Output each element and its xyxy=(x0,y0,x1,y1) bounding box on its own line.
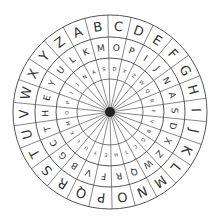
ring-middle-letter: Z xyxy=(153,148,165,159)
ring-outer-letter: N xyxy=(135,183,150,201)
ring-middle-letter: C xyxy=(48,138,60,148)
ring-outer-letter: H xyxy=(185,83,202,96)
ring-inner-letter: Q xyxy=(144,88,151,94)
ring-inner-letter: X xyxy=(122,68,128,75)
ring-middle-letter: H xyxy=(40,110,50,117)
ring-inner-letter: G xyxy=(140,137,147,144)
ring-inner-letter: J xyxy=(73,81,79,87)
ring-middle-letter: B xyxy=(69,160,80,172)
ring-outer-letter: D xyxy=(132,22,146,39)
ring-inner-letter: A xyxy=(91,68,97,75)
cipher-wheel[interactable]: ABCDEFGHIJKLMNOPQRSTUVWXYZKMOPIJNASDXZWQ… xyxy=(0,0,217,223)
ring-middle-letter: L xyxy=(67,54,77,65)
ring-middle-letter: M xyxy=(96,43,105,54)
ring-inner-letter: Y xyxy=(92,149,99,156)
ring-outer-letter: B xyxy=(92,19,103,35)
ring-middle-letter: J xyxy=(152,63,162,72)
ring-inner-letter: M xyxy=(65,120,72,126)
ring-inner-letter: T xyxy=(123,149,130,156)
ring-middle-letter: F xyxy=(101,171,107,181)
ring-outer-letter: O xyxy=(116,189,128,205)
ring-middle-letter: T xyxy=(42,124,53,133)
ring-outer-letter: X xyxy=(24,66,41,81)
ring-middle-letter: O xyxy=(112,42,120,53)
ring-inner-letter: Z xyxy=(131,72,138,79)
ring-middle-letter: K xyxy=(81,46,91,58)
ring-outer-letter: T xyxy=(26,146,43,161)
ring-middle-letter: A xyxy=(167,91,178,100)
ring-outer-letter: A xyxy=(71,24,85,41)
ring-middle-letter: X xyxy=(162,136,174,146)
ring-outer-letter: L xyxy=(167,160,184,176)
spoke-line xyxy=(110,112,112,209)
ring-outer-letter: J xyxy=(186,126,202,134)
ring-outer-letter: K xyxy=(178,143,195,158)
ring-inner-letter: R xyxy=(149,98,156,103)
ring-middle-letter: W xyxy=(141,158,154,171)
ring-inner-letter: C xyxy=(132,144,139,151)
ring-outer-letter: Z xyxy=(52,34,68,51)
ring-outer-letter: U xyxy=(18,128,35,141)
ring-outer-letter: M xyxy=(151,172,169,191)
ring-inner-letter: I xyxy=(68,91,74,95)
ring-inner-letter: O xyxy=(63,111,69,115)
ring-middle-letter: D xyxy=(167,122,178,131)
ring-inner-letter: S xyxy=(102,66,106,72)
ring-outer-letter: R xyxy=(55,175,71,193)
ring-outer-letter: S xyxy=(39,162,56,178)
ring-inner-letter: P xyxy=(64,100,71,104)
ring-inner-letter: F xyxy=(150,110,156,113)
ring-outer-letter: F xyxy=(165,46,181,62)
ring-middle-letter: Y xyxy=(46,78,58,89)
ring-inner-letter: N xyxy=(81,73,88,80)
ring-outer-letter: Y xyxy=(35,48,52,65)
ring-middle-letter: V xyxy=(83,167,93,179)
spoke-line xyxy=(31,112,110,169)
ring-inner-letter: D xyxy=(112,66,117,72)
spoke-line xyxy=(110,55,189,112)
ring-inner-letter: B xyxy=(145,129,152,135)
ring-outer-letter: C xyxy=(113,19,124,35)
ring-middle-letter: U xyxy=(55,65,67,76)
center-hub xyxy=(105,107,115,117)
ring-middle-letter: N xyxy=(160,75,172,86)
ring-outer-letter: I xyxy=(188,108,203,112)
ring-inner-letter: U xyxy=(83,145,90,152)
ring-inner-letter: W xyxy=(138,79,146,87)
ring-middle-letter: P xyxy=(127,46,136,57)
ring-inner-letter: H xyxy=(114,152,119,159)
ring-inner-letter: L xyxy=(75,138,81,144)
ring-outer-letter: P xyxy=(97,190,106,206)
ring-outer-letter: W xyxy=(17,85,34,101)
ring-middle-letter: S xyxy=(169,108,179,114)
ring-middle-letter: E xyxy=(42,94,53,102)
ring-inner-letter: K xyxy=(68,130,75,136)
ring-middle-letter: Q xyxy=(129,166,139,178)
ring-inner-letter: V xyxy=(149,119,156,124)
spoke-line xyxy=(108,15,110,112)
ring-outer-letter: E xyxy=(150,32,165,49)
ring-middle-letter: R xyxy=(115,170,123,181)
ring-middle-letter: I xyxy=(142,53,150,63)
ring-outer-letter: V xyxy=(16,109,31,118)
ring-middle-letter: G xyxy=(57,150,69,162)
ring-outer-letter: Q xyxy=(74,184,89,202)
ring-outer-letter: G xyxy=(176,62,194,78)
ring-inner-letter: E xyxy=(104,152,108,158)
